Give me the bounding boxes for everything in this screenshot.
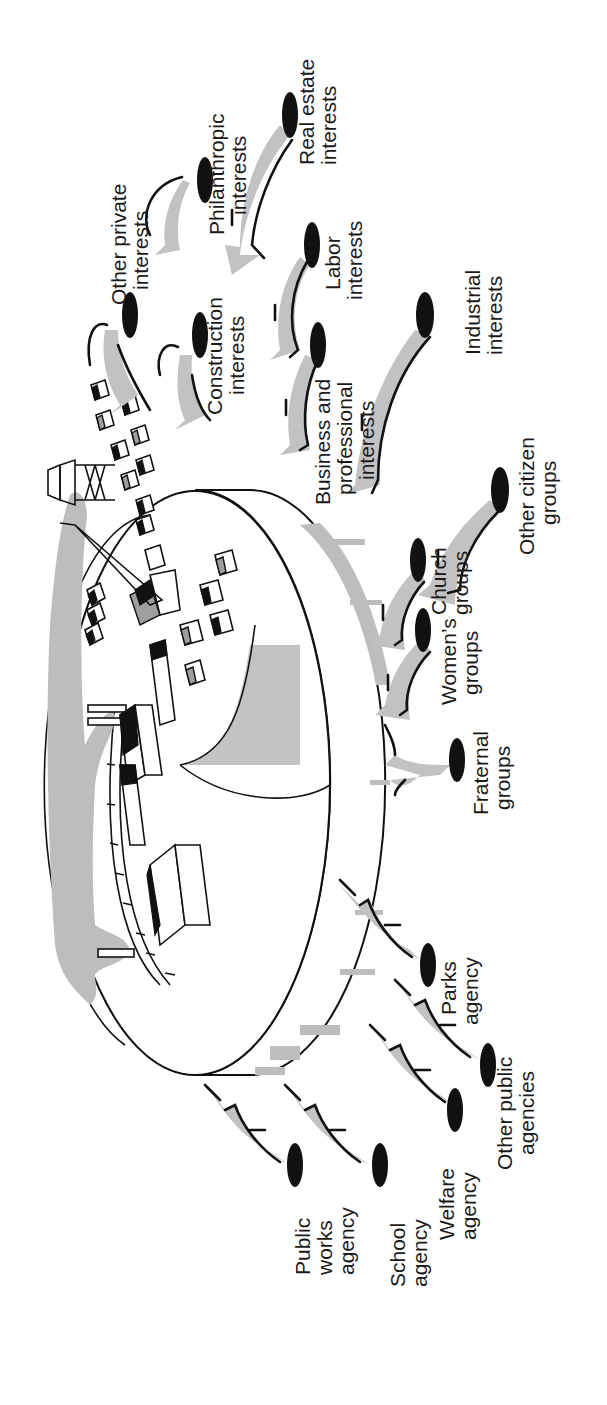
- label-philanthropic-2: interests: [227, 136, 250, 215]
- label-other-public-1: Other public: [493, 1057, 516, 1170]
- label-fraternal-2: groups: [491, 746, 514, 810]
- label-real-estate-2: interests: [317, 86, 340, 165]
- label-business-3: interests: [355, 401, 378, 480]
- label-womens-1: Women’s: [437, 618, 460, 705]
- node-other-private[interactable]: Other private interests: [89, 184, 152, 415]
- node-philanthropic[interactable]: Philanthropic interests: [146, 114, 250, 255]
- label-other-private-2: interests: [129, 211, 152, 290]
- node-fraternal[interactable]: Fraternal groups: [385, 725, 514, 815]
- label-welfare-2: agency: [457, 1172, 480, 1240]
- disk-top: [60, 491, 330, 1075]
- label-business-2: professional: [333, 382, 356, 495]
- label-labor-2: interests: [343, 221, 366, 300]
- label-business-1: Business and: [311, 379, 334, 505]
- label-other-public-2: agencies: [515, 1071, 538, 1155]
- label-public-works-1: Public: [291, 1218, 314, 1275]
- label-real-estate-1: Real estate: [295, 59, 318, 165]
- label-industrial-2: interests: [483, 276, 506, 355]
- label-school-2: agency: [408, 1219, 431, 1287]
- label-womens-2: groups: [459, 631, 482, 695]
- node-construction[interactable]: Construction interests: [159, 297, 248, 430]
- label-other-citizen-1: Other citizen: [515, 437, 538, 555]
- label-philanthropic-1: Philanthropic: [205, 114, 228, 235]
- label-fraternal-1: Fraternal: [469, 731, 492, 815]
- label-public-works-3: agency: [335, 1207, 358, 1275]
- label-other-citizen-2: groups: [537, 461, 560, 525]
- community-influence-diagram: Real estate interests Philanthropic inte…: [0, 0, 607, 1405]
- label-other-private-1: Other private: [107, 184, 130, 305]
- label-labor-1: Labor: [321, 236, 344, 290]
- label-construction-1: Construction: [203, 297, 226, 415]
- label-church-2: groups: [449, 551, 472, 615]
- label-school-1: School: [386, 1223, 409, 1287]
- node-welfare[interactable]: Welfare agency: [370, 1025, 480, 1240]
- node-public-works[interactable]: Public works agency: [205, 1085, 358, 1276]
- label-church-1: Church: [427, 547, 450, 615]
- label-welfare-1: Welfare: [435, 1168, 458, 1240]
- label-public-works-2: works: [313, 1220, 336, 1276]
- label-construction-2: interests: [225, 316, 248, 395]
- label-industrial-1: Industrial: [461, 270, 484, 355]
- label-parks-2: agency: [459, 957, 482, 1025]
- label-parks-1: Parks: [437, 961, 460, 1015]
